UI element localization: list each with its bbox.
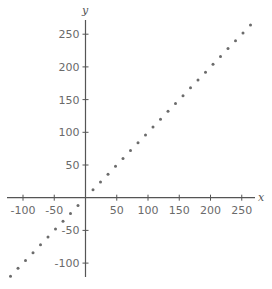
data-point bbox=[107, 173, 110, 176]
y-axis-ticks: 25020015010050-50-100 bbox=[55, 28, 89, 270]
x-axis-title: x bbox=[258, 191, 265, 204]
data-point bbox=[32, 251, 35, 254]
x-tick-label: 100 bbox=[138, 204, 159, 217]
axes: x y bbox=[7, 4, 265, 277]
data-point bbox=[182, 94, 185, 97]
data-point bbox=[249, 24, 252, 27]
data-point bbox=[159, 118, 162, 121]
y-tick-label: -50 bbox=[62, 224, 80, 237]
x-tick-label: -50 bbox=[45, 204, 63, 217]
data-point bbox=[152, 126, 155, 129]
data-point bbox=[174, 102, 177, 105]
y-tick-label: 200 bbox=[59, 61, 80, 74]
data-point bbox=[39, 243, 42, 246]
data-point bbox=[17, 267, 20, 270]
data-point bbox=[204, 71, 207, 74]
data-point bbox=[137, 141, 140, 144]
x-tick-label: 50 bbox=[110, 204, 124, 217]
data-point bbox=[47, 235, 50, 238]
x-tick-label: -100 bbox=[11, 204, 36, 217]
data-point bbox=[77, 204, 80, 207]
data-point bbox=[189, 86, 192, 89]
data-point bbox=[197, 78, 200, 81]
data-point bbox=[122, 157, 125, 160]
x-tick-label: 200 bbox=[200, 204, 221, 217]
x-tick-label: 150 bbox=[169, 204, 190, 217]
data-point bbox=[54, 228, 57, 231]
data-point bbox=[69, 212, 72, 215]
x-tick-label: 250 bbox=[231, 204, 252, 217]
data-point bbox=[144, 133, 147, 136]
y-tick-label: 100 bbox=[59, 126, 80, 139]
y-tick-label: 150 bbox=[59, 94, 80, 107]
y-axis-title: y bbox=[81, 4, 89, 17]
data-points bbox=[9, 24, 252, 278]
data-point bbox=[62, 220, 65, 223]
data-point bbox=[9, 275, 12, 278]
y-tick-label: -100 bbox=[55, 257, 80, 270]
data-point bbox=[24, 259, 27, 262]
data-point bbox=[212, 63, 215, 66]
data-point bbox=[219, 55, 222, 58]
data-point bbox=[242, 31, 245, 34]
data-point bbox=[99, 181, 102, 184]
data-point bbox=[92, 188, 95, 191]
y-tick-label: 50 bbox=[66, 159, 80, 172]
data-point bbox=[129, 149, 132, 152]
data-point bbox=[114, 165, 117, 168]
data-point bbox=[167, 110, 170, 113]
y-tick-label: 250 bbox=[59, 28, 80, 41]
scatter-chart: x y -100-5050100150200250 25020015010050… bbox=[0, 0, 272, 289]
data-point bbox=[234, 39, 237, 42]
data-point bbox=[227, 47, 230, 50]
